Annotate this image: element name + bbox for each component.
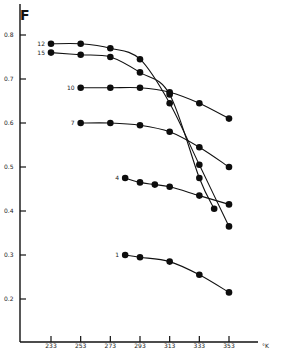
x-tick-label: 273 [105,342,117,349]
data-point [107,54,114,61]
series-label: 7 [71,119,75,126]
x-tick-label: 293 [134,342,146,349]
data-point [166,258,173,265]
data-point [152,181,159,188]
data-point [166,89,173,96]
series-label: 12 [37,40,45,47]
line-chart: F 0.20.30.40.50.60.70.8 2332532732933133… [0,0,289,349]
series-label: 1 [115,251,119,258]
y-tick-label: 0.8 [4,31,14,38]
y-axis-label: F [20,7,30,23]
x-tick-label: 253 [75,342,87,349]
series-15: 15 [37,49,217,213]
data-point [107,85,114,92]
data-point [226,115,233,122]
data-point [137,69,144,76]
data-point [137,85,144,92]
data-point [196,162,203,169]
y-tick-label: 0.5 [4,163,14,170]
data-point [196,100,203,107]
series-line [81,87,229,118]
data-point [77,41,84,48]
data-point [137,56,144,63]
data-point [196,144,203,151]
data-point [137,122,144,129]
y-tick-label: 0.6 [4,119,14,126]
data-point [166,100,173,107]
series-12: 12 [37,40,232,230]
x-axis-unit-label: °K [262,342,270,349]
series-label: 10 [67,84,75,91]
series-group: 121510741 [37,40,232,296]
data-point [77,52,84,59]
data-point [77,85,84,92]
data-point [107,120,114,127]
series-1: 1 [115,251,232,296]
data-point [196,272,203,279]
y-axis-ticks: 0.20.30.40.50.60.70.8 [4,31,26,302]
series-7: 7 [71,119,232,170]
data-point [226,223,233,230]
y-tick-label: 0.4 [4,207,14,214]
y-axis-title: F [20,7,30,23]
y-tick-label: 0.3 [4,251,14,258]
data-point [196,192,203,199]
data-point [107,45,114,52]
series-4: 4 [115,174,232,208]
data-point [226,289,233,296]
data-point [226,201,233,208]
data-point [122,175,129,182]
data-point [166,184,173,191]
x-tick-label: 233 [45,342,57,349]
series-line [51,53,214,209]
data-point [77,120,84,127]
data-point [48,49,55,56]
y-tick-label: 0.7 [4,75,14,82]
data-point [226,164,233,171]
series-10: 10 [67,84,232,122]
x-tick-label: 313 [164,342,176,349]
data-point [137,179,144,186]
series-label: 15 [37,49,45,56]
y-tick-label: 0.2 [4,295,14,302]
series-line [81,123,229,167]
data-point [48,41,55,48]
data-point [122,252,129,259]
x-tick-label: 353 [223,342,235,349]
data-point [211,206,218,213]
data-point [196,175,203,182]
data-point [166,129,173,136]
x-tick-label: 333 [194,342,206,349]
series-line [125,255,229,292]
data-point [137,254,144,261]
series-label: 4 [115,174,119,181]
